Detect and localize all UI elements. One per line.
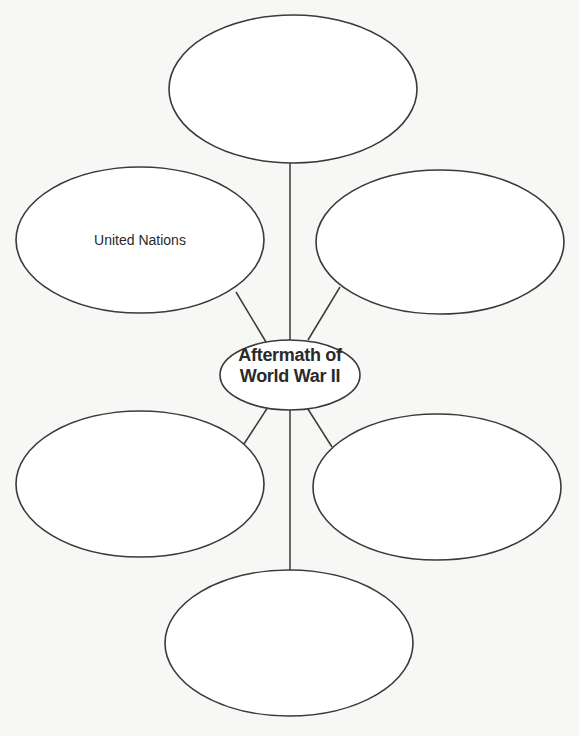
node-top[interactable] (169, 15, 417, 163)
node-upper-left-label: United Nations (40, 232, 240, 248)
center-label-line2: World War II (220, 366, 360, 387)
node-bottom[interactable] (165, 570, 413, 716)
connector-lower-right (306, 406, 332, 447)
node-lower-left[interactable] (16, 411, 264, 557)
center-label: Aftermath of World War II (220, 345, 360, 387)
connector-lower-left (244, 407, 268, 444)
node-upper-right[interactable] (316, 170, 564, 314)
node-lower-right[interactable] (313, 414, 561, 560)
connector-upper-left (236, 292, 266, 342)
center-label-line1: Aftermath of (220, 345, 360, 366)
connector-upper-right (308, 287, 340, 340)
